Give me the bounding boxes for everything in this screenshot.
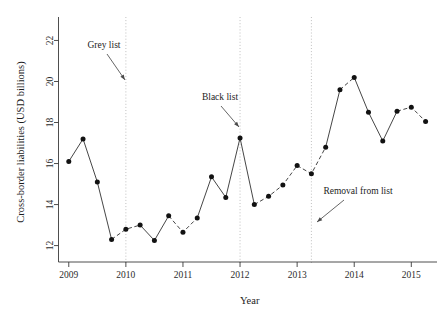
data-point [152,238,157,243]
data-point [395,109,400,114]
series-segment-solid-2014-dip [354,77,397,141]
series-segment-dashed-2014-peak [340,77,354,89]
annotation-label-removal-from-list: Removal from list [323,186,392,196]
x-tick-label-2015: 2015 [402,270,421,280]
line-chart: 1214161820222009201020112012201320142015… [0,0,441,326]
data-point [180,230,185,235]
x-tick-label-2011: 2011 [174,270,193,280]
y-tick-label-12: 12 [46,241,56,251]
series-segment-solid-2011-2012 [197,138,254,218]
series-segment-solid-2009-2010 [69,139,112,240]
data-point [66,159,71,164]
x-tick-label-2009: 2009 [59,270,78,280]
x-tick-label-2013: 2013 [288,270,307,280]
annotation-label-grey-list: Grey list [88,40,121,50]
x-tick-label-2012: 2012 [231,270,250,280]
data-point [238,135,243,140]
data-point [352,75,357,80]
data-point [223,195,228,200]
data-point [380,138,385,143]
chart-page: 1214161820222009201020112012201320142015… [0,0,441,326]
data-point [81,136,86,141]
data-point [423,119,428,124]
y-axis-title: Cross-border liabilities (USD billions) [15,61,27,223]
data-point [409,105,414,110]
x-axis-title: Year [240,295,260,306]
data-point [209,174,214,179]
series-segment-solid-2010-mid [140,216,169,241]
data-point [95,180,100,185]
data-point [280,183,285,188]
data-point [195,215,200,220]
x-tick-label-2014: 2014 [345,270,364,280]
data-point [309,171,314,176]
y-tick-label-18: 18 [46,118,56,128]
data-point [123,227,128,232]
data-point [252,202,257,207]
annotation-arrow-removal-from-list [317,200,344,222]
data-point [337,87,342,92]
annotation-arrowhead-grey-list [120,75,125,80]
data-point [266,194,271,199]
y-tick-label-14: 14 [46,200,56,210]
y-tick-label-16: 16 [46,159,56,169]
series-segment-solid-2013-2014 [326,90,340,147]
annotation-label-black-list: Black list [202,92,239,102]
y-tick-label-22: 22 [46,35,56,45]
data-point [109,237,114,242]
series-segment-dashed-2012-2013 [254,166,297,205]
data-point [138,223,143,228]
y-tick-label-20: 20 [46,76,56,86]
data-point [366,110,371,115]
data-point [295,163,300,168]
data-point [166,213,171,218]
x-tick-label-2010: 2010 [116,270,135,280]
data-point [323,145,328,150]
